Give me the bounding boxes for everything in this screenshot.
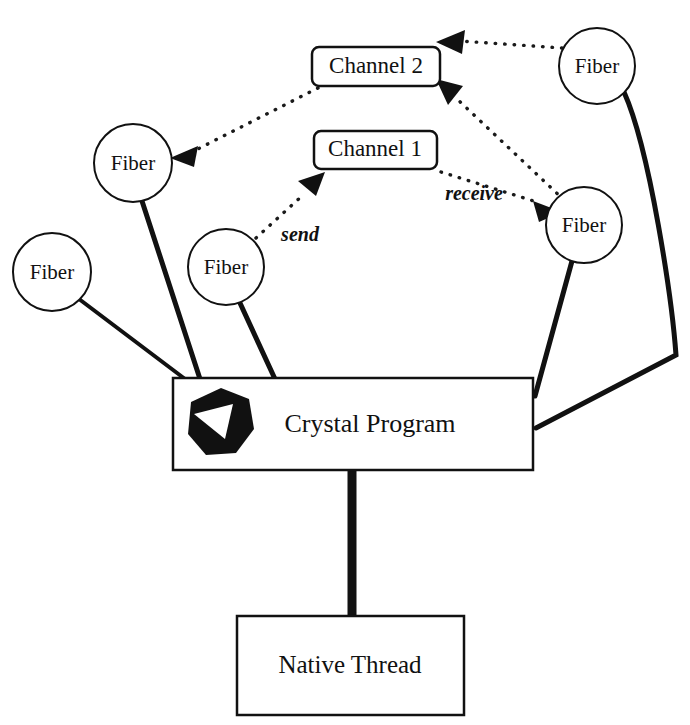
- edge-fiber-4-to-channel-2: [460, 41, 562, 48]
- channel-1-label: Channel 1: [328, 136, 422, 161]
- arrowhead-into-channel-1: [298, 172, 325, 196]
- arrowhead-into-fiber-2: [170, 146, 198, 167]
- native-thread-node[interactable]: Native Thread: [237, 616, 464, 715]
- channel-2-label: Channel 2: [329, 53, 423, 78]
- send-label: send: [280, 223, 320, 245]
- receive-label: receive: [445, 182, 503, 204]
- fiber-node-fiber-5[interactable]: Fiber: [546, 187, 622, 263]
- fiber-node-fiber-2[interactable]: Fiber: [94, 124, 172, 202]
- channel-node-channel-2[interactable]: Channel 2: [312, 47, 440, 86]
- fiber-5-label: Fiber: [562, 213, 606, 237]
- native-thread-label: Native Thread: [278, 651, 422, 678]
- fiber-node-fiber-1[interactable]: Fiber: [13, 233, 91, 311]
- fiber-1-label: Fiber: [30, 260, 74, 284]
- channel-node-channel-1[interactable]: Channel 1: [314, 131, 437, 169]
- edge-fiber-5-to-program: [535, 261, 572, 396]
- edge-fiber-1-to-program: [79, 299, 185, 379]
- crystal-program-node[interactable]: Crystal Program: [173, 378, 533, 470]
- edge-fiber-4-to-program: [536, 92, 676, 428]
- diagram-canvas: send receive Fiber Fiber Fiber Fiber Fib…: [0, 0, 690, 725]
- fiber-node-fiber-3[interactable]: Fiber: [188, 229, 264, 305]
- fiber-4-label: Fiber: [575, 54, 619, 78]
- crystal-program-label: Crystal Program: [284, 409, 455, 438]
- fiber-channel-diagram: send receive Fiber Fiber Fiber Fiber Fib…: [0, 0, 690, 725]
- edge-fiber-3-to-program: [240, 303, 275, 379]
- fiber-3-label: Fiber: [204, 255, 248, 279]
- fiber-2-label: Fiber: [111, 151, 155, 175]
- fiber-node-fiber-4[interactable]: Fiber: [559, 28, 635, 104]
- edge-channel-2-to-fiber-2: [186, 88, 318, 155]
